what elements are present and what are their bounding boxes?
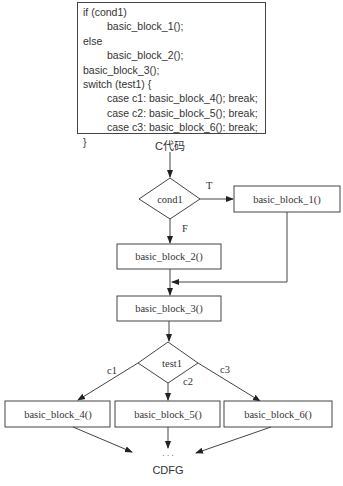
bb2-label: basic_block_2() (135, 251, 203, 263)
true-label: T (206, 180, 213, 191)
false-label: F (182, 223, 188, 234)
edge-bb4-next (73, 427, 132, 452)
c3-label: c3 (220, 364, 230, 375)
bb1-label: basic_block_1() (253, 194, 321, 206)
bb4-label: basic_block_4() (24, 409, 92, 421)
c1-label: c1 (107, 365, 117, 376)
test1-label: test1 (162, 358, 182, 369)
bb6-label: basic_block_6() (244, 409, 312, 421)
cond1-label: cond1 (157, 194, 183, 205)
cdfg-caption: CDFG (138, 464, 198, 476)
ellipsis: · · · (162, 451, 174, 460)
c2-label: c2 (183, 376, 193, 387)
cdfg-diagram: cond1 T F basic_block_1() basic_block_2(… (0, 0, 343, 486)
bb3-label: basic_block_3() (135, 303, 203, 315)
edge-bb6-next (196, 427, 271, 453)
bb5-label: basic_block_5() (134, 409, 202, 421)
